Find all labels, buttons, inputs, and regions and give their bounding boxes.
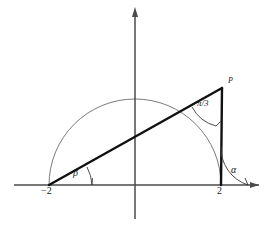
x-axis-arrowhead-icon: [250, 182, 259, 188]
angle-label-pi-over-three: π/3: [197, 99, 209, 108]
beta-arc-tick: [92, 178, 93, 185]
point-label-negative-two: −2: [41, 186, 52, 196]
point-label-p: P: [228, 77, 233, 85]
pi-over-three-arc-tick: [216, 121, 221, 126]
point-label-positive-two: 2: [217, 186, 222, 196]
y-axis-arrowhead-icon: [132, 7, 138, 17]
angle-label-beta: β: [73, 168, 78, 178]
beta-angle-arc: [87, 167, 92, 185]
angle-label-alpha: α: [231, 165, 236, 175]
vertical-leg-segment: [221, 88, 222, 185]
pi-over-three-angle-arc: [192, 107, 216, 126]
geometry-figure: −2 2 P β α π/3: [0, 0, 268, 227]
